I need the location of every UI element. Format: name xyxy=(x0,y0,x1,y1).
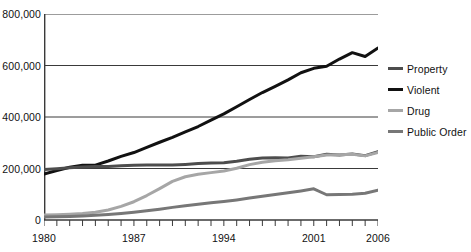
x-axis-tick-label: 2001 xyxy=(302,232,326,244)
chart-legend: PropertyViolentDrugPublic Order xyxy=(388,58,471,142)
y-axis: 0200,000400,000600,000800,000 xyxy=(0,0,41,252)
y-axis-tick-label: 400,000 xyxy=(2,111,41,123)
x-axis: 19801987199420012006 xyxy=(0,232,471,252)
legend-label: Violent xyxy=(407,84,440,96)
x-axis-tick-label: 1980 xyxy=(32,232,56,244)
legend-swatch-icon xyxy=(388,130,403,133)
plot-svg xyxy=(44,14,378,228)
legend-item: Public Order xyxy=(388,121,471,142)
x-axis-tick-label: 1994 xyxy=(212,232,236,244)
legend-swatch-icon xyxy=(388,67,403,70)
y-axis-tick-label: 0 xyxy=(35,214,41,226)
legend-swatch-icon xyxy=(388,109,403,112)
plot-area xyxy=(44,14,378,220)
y-axis-tick-label: 600,000 xyxy=(2,60,41,72)
x-axis-tick-label: 1987 xyxy=(122,232,146,244)
legend-item: Violent xyxy=(388,79,471,100)
legend-label: Public Order xyxy=(407,126,467,138)
y-axis-tick-label: 200,000 xyxy=(2,163,41,175)
legend-swatch-icon xyxy=(388,88,403,91)
y-axis-tick-label: 800,000 xyxy=(2,8,41,20)
legend-item: Drug xyxy=(388,100,471,121)
legend-item: Property xyxy=(388,58,471,79)
x-axis-tick-label: 2006 xyxy=(366,232,390,244)
legend-label: Property xyxy=(407,63,447,75)
legend-label: Drug xyxy=(407,105,430,117)
line-chart: 0200,000400,000600,000800,000 1980198719… xyxy=(0,0,471,252)
